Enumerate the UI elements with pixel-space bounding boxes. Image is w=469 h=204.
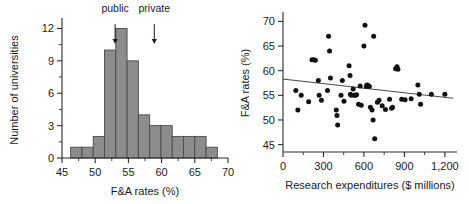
scatter-point <box>327 48 332 53</box>
scatter-point <box>371 34 376 39</box>
scatter-point <box>319 98 324 103</box>
histogram-x-tick-label: 65 <box>189 166 201 178</box>
scatter-point <box>328 76 333 81</box>
scatter-point <box>340 78 345 83</box>
scatter-point <box>387 97 392 102</box>
scatter-point <box>313 58 318 63</box>
scatter-point <box>299 93 304 98</box>
scatter-point <box>380 103 385 108</box>
scatter-point <box>377 98 382 103</box>
scatter-point <box>367 84 372 89</box>
histogram-bar <box>93 136 104 158</box>
scatter-point <box>335 122 340 127</box>
scatter-x-tick-label: 900 <box>395 160 413 172</box>
scatter-point <box>359 103 364 108</box>
histogram-x-tick-label: 45 <box>56 166 68 178</box>
histogram-panel: 036912455055606570F&A rates (%)Number of… <box>0 0 235 204</box>
histogram-annotation-label: public <box>101 2 128 14</box>
histogram-bar <box>184 136 195 158</box>
scatter-point <box>395 67 400 72</box>
histogram-bar <box>71 147 82 158</box>
histogram-bar <box>150 126 161 158</box>
scatter-point <box>417 92 422 97</box>
scatter-y-tick-label: 50 <box>263 114 275 126</box>
scatter-point <box>306 99 311 104</box>
scatter-point <box>429 92 434 97</box>
scatter-x-tick-label: 1,200 <box>431 160 459 172</box>
scatter-point <box>371 117 376 122</box>
scatter-point <box>325 88 330 93</box>
scatter-point <box>383 107 388 112</box>
scatter-trendline <box>283 79 453 98</box>
scatter-y-tick-label: 65 <box>263 40 275 52</box>
scatter-svg: 45505560657003006009001,200Research expe… <box>235 0 469 204</box>
scatter-point <box>348 73 353 78</box>
histogram-y-tick-label: 12 <box>42 22 54 34</box>
histogram-bar <box>195 136 206 158</box>
histogram-annotation-arrowhead <box>152 39 157 44</box>
histogram-y-tick-label: 9 <box>48 55 54 67</box>
histogram-x-tick-label: 70 <box>222 166 234 178</box>
scatter-point <box>317 93 322 98</box>
scatter-point <box>415 82 420 87</box>
histogram-y-tick-label: 3 <box>48 120 54 132</box>
scatter-point <box>339 93 344 98</box>
histogram-y-tick-label: 0 <box>48 152 54 164</box>
scatter-point <box>334 113 339 118</box>
scatter-point <box>390 105 395 110</box>
scatter-point <box>316 78 321 83</box>
scatter-point <box>372 136 377 141</box>
scatter-point <box>354 92 359 97</box>
scatter-point <box>409 96 414 101</box>
scatter-x-tick-label: 300 <box>314 160 332 172</box>
histogram-x-tick-label: 60 <box>155 166 167 178</box>
scatter-point <box>418 102 423 107</box>
histogram-bar <box>104 50 115 158</box>
scatter-point <box>351 86 356 91</box>
scatter-panel: 45505560657003006009001,200Research expe… <box>235 0 469 204</box>
scatter-x-tick-label: 600 <box>355 160 373 172</box>
histogram-bar <box>127 61 138 158</box>
scatter-point <box>370 108 375 113</box>
scatter-y-tick-label: 55 <box>263 89 275 101</box>
scatter-point <box>341 99 346 104</box>
scatter-point <box>361 44 366 49</box>
figure-container: 036912455055606570F&A rates (%)Number of… <box>0 0 469 204</box>
scatter-point <box>358 83 363 88</box>
scatter-point <box>326 34 331 39</box>
histogram-annotation-label: private <box>139 2 171 14</box>
histogram-y-axis-label: Number of universities <box>8 35 20 145</box>
histogram-bar <box>161 126 172 158</box>
histogram-bar <box>172 136 183 158</box>
scatter-point <box>442 92 447 97</box>
scatter-x-tick-label: 0 <box>280 160 286 172</box>
scatter-point <box>293 88 298 93</box>
histogram-bar <box>82 147 93 158</box>
histogram-x-tick-label: 55 <box>122 166 134 178</box>
scatter-point <box>347 63 352 68</box>
histogram-bar <box>206 147 217 158</box>
scatter-y-tick-label: 60 <box>263 65 275 77</box>
scatter-y-tick-label: 45 <box>263 139 275 151</box>
histogram-svg: 036912455055606570F&A rates (%)Number of… <box>0 0 235 204</box>
histogram-x-axis-label: F&A rates (%) <box>111 185 179 197</box>
scatter-point <box>334 108 339 113</box>
scatter-point <box>403 97 408 102</box>
scatter-y-tick-label: 70 <box>263 15 275 27</box>
histogram-bar <box>116 28 127 158</box>
histogram-y-tick-label: 6 <box>48 87 54 99</box>
histogram-bar <box>138 115 149 158</box>
scatter-x-axis-label: Research expenditures ($ millions) <box>285 179 454 191</box>
scatter-y-axis-label: F&A rates (%) <box>239 49 251 117</box>
scatter-point <box>295 108 300 113</box>
histogram-x-tick-label: 50 <box>89 166 101 178</box>
scatter-point <box>363 23 368 28</box>
